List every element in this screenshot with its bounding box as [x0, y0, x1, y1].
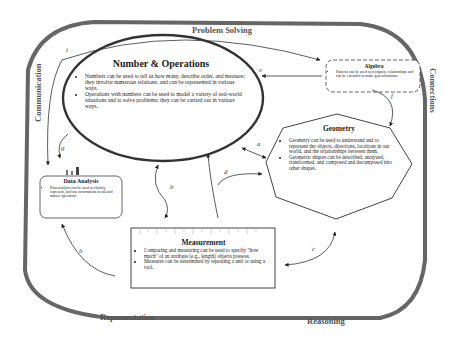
- edge-label-h: h: [79, 247, 83, 255]
- geometry-bullet: Geometry can be used to understand and t…: [289, 138, 398, 155]
- edge-label-b: b: [170, 183, 174, 191]
- edge-label-a: a: [257, 140, 261, 148]
- edge-i-tail: [48, 60, 62, 165]
- edge-label-g: g: [61, 144, 65, 152]
- algebra-title: Algebra: [330, 63, 418, 69]
- label-connections: Connections: [428, 68, 438, 113]
- data-analysis-title: Data Analysis: [43, 178, 119, 184]
- label-communication: Communication: [33, 63, 43, 122]
- node-geometry: Geometry Geometry can be used to underst…: [280, 124, 398, 172]
- edge-label-e: e: [259, 66, 262, 74]
- edge-b: [155, 165, 167, 218]
- measurement-bullet: Measures can be determined by repeating …: [144, 259, 272, 270]
- number-operations-bullet: Numbers can be used to tell us how many,…: [85, 73, 246, 91]
- measurement-title: Measurement: [135, 238, 272, 247]
- node-measurement: Measurement Comparing and measuring can …: [135, 238, 272, 270]
- algebra-bullet: Patterns can be used to recognize relati…: [336, 70, 418, 78]
- node-data-analysis: Data Analysis Data analysis can be used …: [43, 178, 119, 198]
- edge-label-i: i: [66, 46, 68, 54]
- label-problem-solving: Problem Solving: [192, 25, 252, 35]
- data-analysis-bullet: Data analysis can be used to classify, r…: [50, 186, 119, 198]
- edge-d: [208, 154, 218, 218]
- node-algebra: Algebra Patterns can be used to recogniz…: [330, 63, 418, 78]
- edge-label-f: f: [391, 92, 393, 100]
- edge-f: [372, 90, 393, 126]
- node-number-operations: Number & Operations Numbers can be used …: [76, 58, 246, 109]
- edge-label-d: d: [224, 168, 228, 176]
- edge-c: [285, 232, 335, 265]
- bar-chart-icon: [66, 170, 68, 175]
- edge-label-c: c: [312, 245, 315, 253]
- number-operations-title: Number & Operations: [76, 58, 246, 69]
- edge-h: [62, 224, 115, 276]
- edge-a: [242, 148, 266, 158]
- label-reasoning: Reasoning: [307, 316, 345, 326]
- number-operations-bullet: Operations with numbers can be used to m…: [85, 91, 246, 109]
- label-representation: Representation: [100, 312, 155, 322]
- geometry-title: Geometry: [280, 124, 398, 133]
- geometry-bullet: Geometric shapes can be described, analy…: [289, 155, 398, 172]
